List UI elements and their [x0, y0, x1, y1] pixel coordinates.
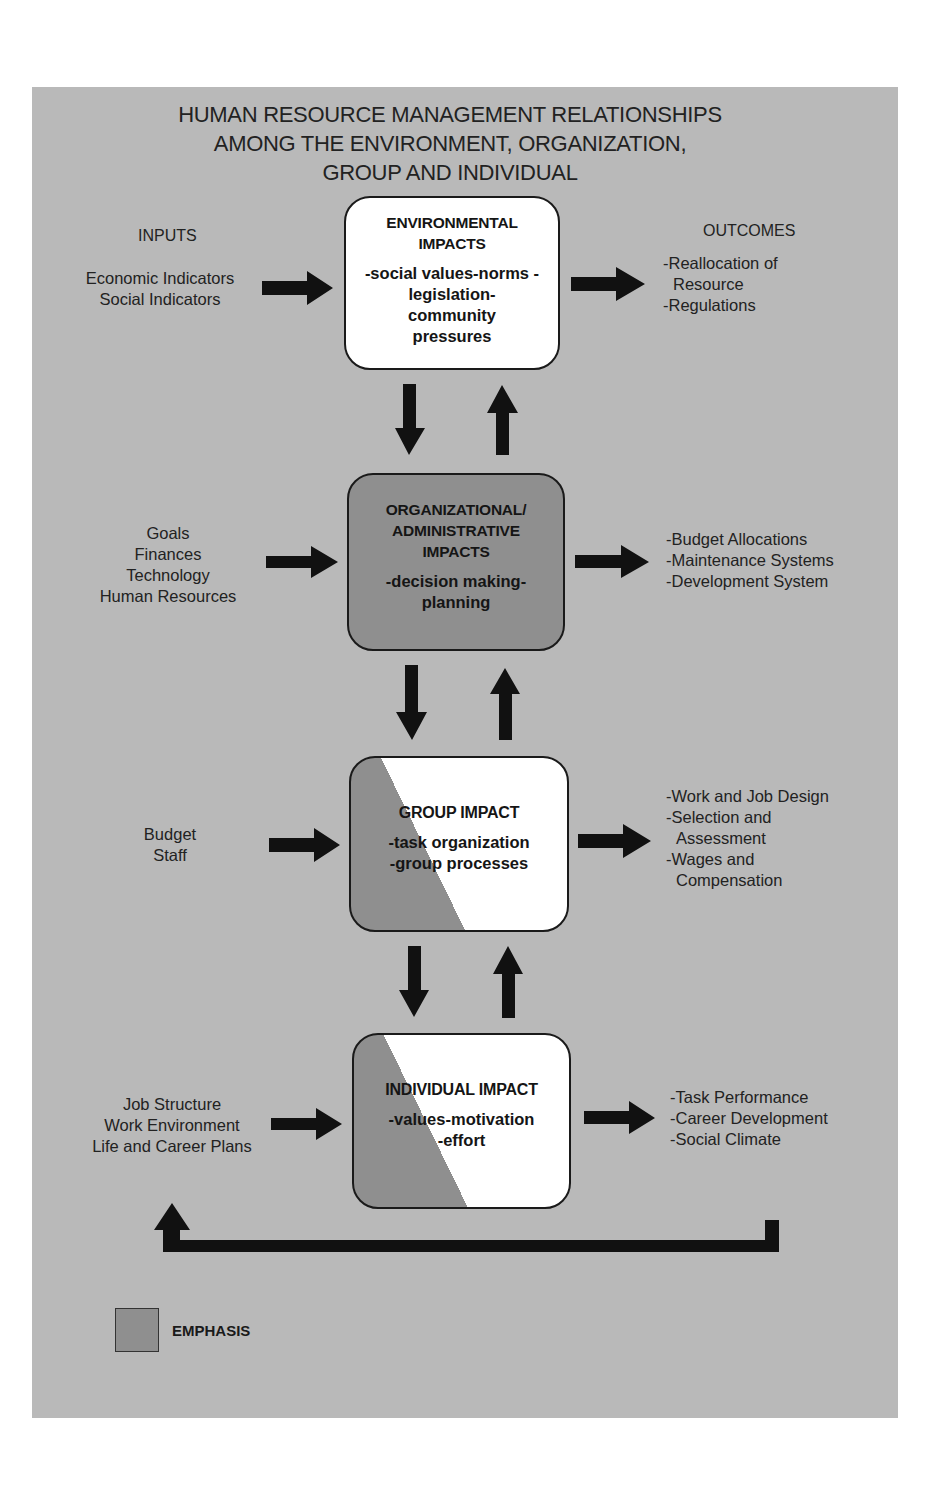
- arrow-up-icon: [493, 946, 523, 1018]
- arrow-right-icon: [578, 824, 651, 858]
- emphasis-legend-label: EMPHASIS: [172, 1322, 250, 1339]
- arrow-right-icon: [262, 271, 333, 305]
- arrow-right-icon: [584, 1101, 655, 1134]
- arrow-down-icon: [396, 665, 427, 740]
- arrows-layer: [0, 0, 935, 1488]
- arrow-right-icon: [269, 828, 340, 862]
- arrow-down-icon: [395, 384, 425, 455]
- arrow-right-icon: [271, 1108, 342, 1140]
- arrow-right-icon: [575, 545, 649, 578]
- arrow-right-icon: [571, 267, 645, 301]
- arrow-up-icon: [487, 385, 518, 455]
- arrow-up-icon: [490, 668, 520, 740]
- arrow-down-icon: [399, 946, 429, 1017]
- emphasis-legend-swatch: [115, 1308, 159, 1352]
- feedback-loop-arrow-icon: [154, 1203, 779, 1252]
- arrow-right-icon: [266, 546, 338, 578]
